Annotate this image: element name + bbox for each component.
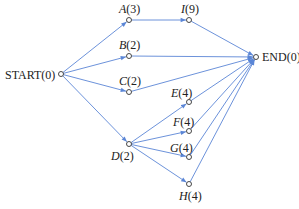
node-duration: (3) xyxy=(126,2,140,16)
node-duration: (4) xyxy=(188,189,202,203)
node-duration: (2) xyxy=(126,38,140,52)
node-i-circle xyxy=(187,18,192,23)
node-duration: (4) xyxy=(180,115,194,129)
node-duration: (2) xyxy=(120,149,134,163)
edge-b-to-end xyxy=(131,56,253,57)
node-label-c: C(2) xyxy=(119,75,141,87)
node-label-e: E(4) xyxy=(171,87,192,99)
node-duration: (4) xyxy=(179,141,193,155)
node-duration: (0) xyxy=(287,50,299,64)
node-label-i: I(9) xyxy=(181,3,199,15)
node-name: G xyxy=(170,141,179,155)
node-name: C xyxy=(119,74,127,88)
node-a-circle xyxy=(127,18,132,23)
node-duration: (4) xyxy=(178,86,192,100)
node-c-circle xyxy=(127,90,132,95)
node-label-start: START(0) xyxy=(5,69,55,81)
edge-h-to-end xyxy=(190,60,254,182)
node-label-d: D(2) xyxy=(111,150,134,162)
edge-start-to-d xyxy=(63,76,127,142)
edge-g-to-end xyxy=(190,59,254,154)
node-name: D xyxy=(111,149,120,163)
node-duration: (0) xyxy=(41,68,55,82)
node-b-circle xyxy=(127,54,132,59)
node-e-circle xyxy=(187,100,192,105)
node-h-circle xyxy=(187,182,192,187)
node-duration: (9) xyxy=(185,2,199,16)
activity-network-diagram: START(0)A(3)I(9)B(2)C(2)D(2)E(4)F(4)G(4)… xyxy=(0,0,299,209)
node-d-circle xyxy=(127,142,132,147)
node-label-h: H(4) xyxy=(179,190,202,202)
node-f-circle xyxy=(187,129,192,134)
node-label-f: F(4) xyxy=(173,116,194,128)
node-duration: (2) xyxy=(127,74,141,88)
edge-i-to-end xyxy=(191,21,253,55)
edges-layer xyxy=(0,0,299,209)
node-label-a: A(3) xyxy=(119,3,140,15)
node-start-circle xyxy=(59,72,64,77)
node-g-circle xyxy=(187,155,192,160)
node-end-circle xyxy=(254,55,259,60)
node-name: END xyxy=(262,50,287,64)
node-name: H xyxy=(179,189,188,203)
node-label-b: B(2) xyxy=(119,39,140,51)
node-name: START xyxy=(5,68,41,82)
node-label-end: END(0) xyxy=(262,51,299,63)
edge-start-to-c xyxy=(63,75,126,92)
node-label-g: G(4) xyxy=(170,142,193,154)
